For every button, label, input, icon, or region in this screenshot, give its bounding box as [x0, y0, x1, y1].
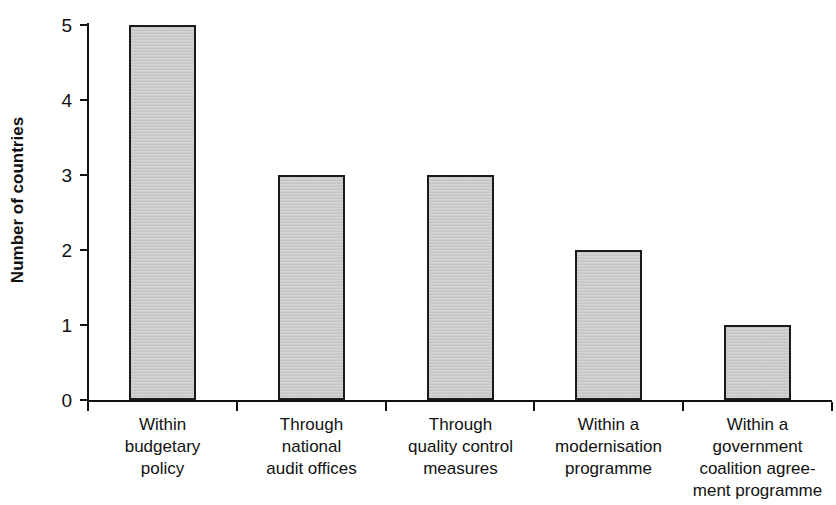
y-axis-tick-label: 4	[42, 90, 72, 110]
y-axis-tick-label: 3	[42, 165, 72, 185]
x-axis-tick	[236, 402, 238, 411]
y-axis-tick-label: 2	[42, 240, 72, 260]
bar-chart-figure: Number of countries 012345 Withinbudgeta…	[0, 0, 836, 505]
y-axis-tick-label-text: 2	[42, 241, 72, 260]
bar	[278, 175, 345, 400]
x-axis-line	[87, 400, 832, 402]
y-axis-tick-label-text: 3	[42, 166, 72, 185]
y-axis-tick	[80, 24, 88, 26]
x-axis-category-label: Within amodernisationprogramme	[527, 414, 690, 480]
bar	[427, 175, 494, 400]
x-axis-category-label-line: ment programme	[676, 480, 836, 502]
y-axis-tick	[80, 399, 88, 401]
x-axis-category-label-line: Within a	[676, 414, 836, 436]
x-axis-category-label-line: policy	[81, 458, 244, 480]
x-axis-tick	[831, 402, 833, 411]
x-axis-category-label: Within agovernmentcoalition agree-ment p…	[676, 414, 836, 502]
x-axis-category-label-line: quality control	[379, 436, 542, 458]
y-axis-tick-label: 5	[42, 15, 72, 35]
y-axis-line	[87, 23, 89, 402]
x-axis-category-label-line: budgetary	[81, 436, 244, 458]
x-axis-tick	[533, 402, 535, 411]
bar	[724, 325, 791, 400]
y-axis-tick-label-text: 5	[42, 16, 72, 35]
y-axis-title-text: Number of countries	[8, 117, 28, 283]
y-axis-tick-label-text: 4	[42, 91, 72, 110]
x-axis-category-label-line: government	[676, 436, 836, 458]
x-axis-tick	[87, 402, 89, 411]
y-axis-tick	[80, 99, 88, 101]
x-axis-category-label-line: Within	[81, 414, 244, 436]
x-axis-category-label-line: national	[230, 436, 393, 458]
x-axis-category-label-line: coalition agree-	[676, 458, 836, 480]
x-axis-category-label-line: audit offices	[230, 458, 393, 480]
x-axis-tick	[682, 402, 684, 411]
y-axis-tick-label: 1	[42, 315, 72, 335]
x-axis-tick	[385, 402, 387, 411]
x-axis-category-label-line: Through	[230, 414, 393, 436]
x-axis-category-label-line: Through	[379, 414, 542, 436]
x-axis-category-label: Throughquality controlmeasures	[379, 414, 542, 480]
y-axis-tick	[80, 174, 88, 176]
y-axis-tick-label-text: 1	[42, 316, 72, 335]
bar	[575, 250, 642, 400]
y-axis-tick	[80, 324, 88, 326]
x-axis-category-label-line: measures	[379, 458, 542, 480]
bar	[129, 25, 196, 400]
x-axis-category-label-line: modernisation	[527, 436, 690, 458]
x-axis-category-label-line: Within a	[527, 414, 690, 436]
y-axis-tick-label-text: 0	[42, 391, 72, 410]
y-axis-tick-label: 0	[42, 390, 72, 410]
y-axis-tick	[80, 249, 88, 251]
x-axis-category-label-line: programme	[527, 458, 690, 480]
x-axis-category-label: Withinbudgetarypolicy	[81, 414, 244, 480]
y-axis-title: Number of countries	[0, 0, 36, 400]
x-axis-category-label: Throughnationalaudit offices	[230, 414, 393, 480]
